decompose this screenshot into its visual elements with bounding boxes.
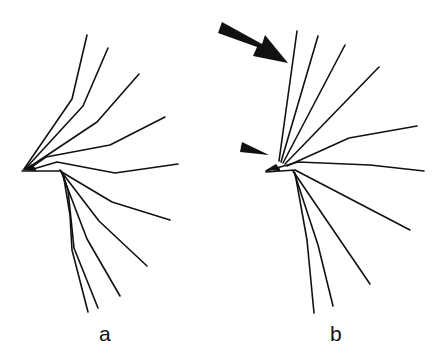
panel-a-label: a [99, 322, 111, 346]
branch-line [28, 74, 139, 168]
branch-line [287, 126, 417, 166]
panel-b-label: b [330, 322, 342, 346]
branch-line [281, 36, 318, 162]
large-arrow-icon [218, 22, 288, 63]
panel-a-branches [22, 35, 178, 312]
figure-canvas [0, 0, 442, 363]
branch-line [285, 67, 379, 164]
branch-line [62, 172, 98, 308]
small-arrowhead-icon [240, 142, 269, 155]
panel-b-branches [266, 31, 424, 313]
branch-line [22, 171, 170, 220]
branch-line [63, 173, 88, 312]
branch-line [295, 173, 314, 313]
branch-line [294, 172, 333, 306]
branch-line [26, 48, 108, 168]
branch-line [266, 170, 410, 230]
